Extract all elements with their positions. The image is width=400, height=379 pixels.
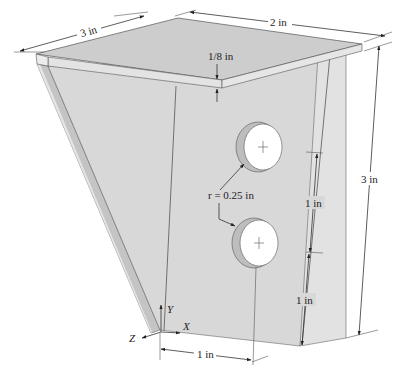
svg-text:1 in: 1 in	[305, 197, 322, 209]
svg-text:1 in: 1 in	[197, 348, 214, 360]
axis-label-x: X	[182, 320, 191, 332]
axis-label-z: Z	[129, 332, 136, 344]
svg-text:3 in: 3 in	[361, 173, 378, 185]
top-plate-left-end	[36, 54, 48, 66]
upper-hole	[236, 122, 282, 172]
bracket-front-face	[48, 56, 332, 346]
svg-text:2 in: 2 in	[270, 16, 287, 28]
svg-text:1 in: 1 in	[296, 294, 313, 306]
bracket-diagram: 3 in 2 in 1/8 in 3 in 1 in 1 in	[0, 0, 400, 379]
svg-text:1/8 in: 1/8 in	[208, 50, 234, 62]
dimension-height: 3 in	[346, 42, 392, 338]
svg-text:r = 0.25 in: r = 0.25 in	[208, 189, 254, 201]
lower-hole	[232, 218, 278, 268]
